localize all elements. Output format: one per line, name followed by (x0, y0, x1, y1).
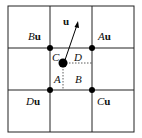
outer-border (8, 6, 134, 132)
corner-label-D: Du (26, 96, 40, 107)
node-dot-bottom-left (47, 87, 53, 93)
node-dot-top-right (89, 45, 95, 51)
region-label-B: B (75, 74, 82, 85)
grid-diagram (0, 0, 142, 138)
corner-label-C: Cu (97, 96, 110, 107)
region-label-C: C (52, 52, 59, 63)
vector-label: u (63, 16, 69, 27)
arrow-head-icon (75, 21, 80, 28)
corner-label-A: Au (98, 31, 111, 42)
node-dot-bottom-right (89, 87, 95, 93)
corner-label-B: Bu (28, 31, 41, 42)
region-label-D: D (74, 52, 82, 63)
region-label-A: A (54, 74, 61, 85)
particle-dot (59, 59, 68, 68)
